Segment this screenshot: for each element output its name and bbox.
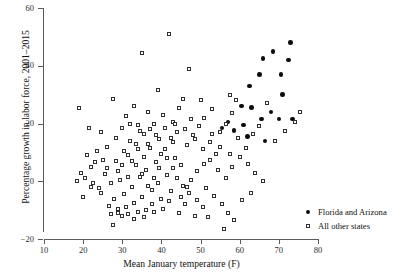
data-point-other-state <box>208 140 212 144</box>
data-point-other-state <box>167 199 171 203</box>
data-point-other-state <box>193 214 197 218</box>
data-point-florida-arizona <box>261 56 266 61</box>
x-tick-label: 30 <box>107 246 137 255</box>
data-point-other-state <box>257 124 261 128</box>
data-point-florida-arizona <box>241 123 246 128</box>
data-point-other-state <box>93 160 97 164</box>
data-point-other-state <box>144 208 148 212</box>
data-point-other-state <box>261 179 265 183</box>
data-point-other-state <box>152 176 156 180</box>
data-point-other-state <box>204 186 208 190</box>
legend-item-all-other-states: All other states <box>302 219 387 233</box>
data-point-other-state <box>179 195 183 199</box>
x-tick <box>240 239 241 244</box>
data-point-other-state <box>142 215 146 219</box>
legend-item-florida-arizona: Florida and Arizona <box>302 205 387 219</box>
data-point-other-state <box>220 202 224 206</box>
filled-circle-icon <box>302 210 314 215</box>
data-point-other-state <box>122 192 126 196</box>
data-point-other-state <box>193 137 197 141</box>
data-point-other-state <box>230 111 234 115</box>
data-point-other-state <box>154 133 158 137</box>
data-point-other-state <box>85 153 89 157</box>
y-axis-line <box>43 8 44 232</box>
data-point-florida-arizona <box>232 128 237 133</box>
data-point-other-state <box>173 122 177 126</box>
data-point-other-state <box>222 227 226 231</box>
data-point-other-state <box>175 176 179 180</box>
x-tick <box>201 239 202 244</box>
data-point-other-state <box>128 122 132 126</box>
data-point-other-state <box>177 211 181 215</box>
data-point-other-state <box>283 129 287 133</box>
data-point-other-state <box>116 211 120 215</box>
data-point-other-state <box>83 176 87 180</box>
data-point-florida-arizona <box>257 72 262 77</box>
data-point-other-state <box>99 191 103 195</box>
y-tick <box>38 239 43 240</box>
data-point-other-state <box>132 217 136 221</box>
data-point-other-state <box>152 122 156 126</box>
data-point-other-state <box>105 145 109 149</box>
x-tick-label: 60 <box>225 246 255 255</box>
data-point-other-state <box>238 155 242 159</box>
data-point-other-state <box>156 181 160 185</box>
data-point-other-state <box>208 158 212 162</box>
data-point-other-state <box>107 204 111 208</box>
data-point-other-state <box>120 126 124 130</box>
data-point-other-state <box>140 51 144 55</box>
data-point-other-state <box>173 156 177 160</box>
data-point-florida-arizona <box>249 105 254 110</box>
data-point-other-state <box>152 210 156 214</box>
scatter-plot-figure: −200204060 1020304050607080 Percentage g… <box>0 0 409 278</box>
data-point-other-state <box>134 142 138 146</box>
data-point-other-state <box>146 142 150 146</box>
data-point-other-state <box>75 179 79 183</box>
data-point-other-state <box>228 152 232 156</box>
data-point-other-state <box>136 147 140 151</box>
x-tick <box>279 239 280 244</box>
data-point-other-state <box>195 198 199 202</box>
data-point-florida-arizona <box>288 40 293 45</box>
data-point-other-state <box>230 165 234 169</box>
data-point-other-state <box>132 201 136 205</box>
data-point-other-state <box>105 166 109 170</box>
data-point-other-state <box>142 132 146 136</box>
data-point-other-state <box>218 145 222 149</box>
data-point-other-state <box>234 98 238 102</box>
chart-legend: Florida and Arizona All other states <box>302 205 387 233</box>
x-tick-label: 80 <box>303 246 333 255</box>
data-point-florida-arizona <box>259 117 264 122</box>
data-point-other-state <box>175 130 179 134</box>
data-point-other-state <box>157 166 161 170</box>
y-tick <box>38 8 43 9</box>
data-point-other-state <box>236 136 240 140</box>
data-point-other-state <box>77 106 81 110</box>
data-point-other-state <box>189 117 193 121</box>
data-point-other-state <box>99 130 103 134</box>
legend-label: Florida and Arizona <box>314 208 387 217</box>
data-point-other-state <box>228 93 232 97</box>
x-tick-label: 50 <box>186 246 216 255</box>
data-point-other-state <box>114 159 118 163</box>
data-point-other-state <box>79 171 83 175</box>
data-point-other-state <box>146 110 150 114</box>
data-point-other-state <box>161 207 165 211</box>
data-point-other-state <box>253 171 257 175</box>
x-axis-line <box>44 239 319 240</box>
y-tick <box>38 66 43 67</box>
data-point-other-state <box>144 168 148 172</box>
data-point-other-state <box>201 205 205 209</box>
data-point-other-state <box>206 215 210 219</box>
data-point-other-state <box>163 126 167 130</box>
data-point-other-state <box>202 116 206 120</box>
data-point-other-state <box>187 191 191 195</box>
y-axis-title: Percentage growth in labor force, 2001–2… <box>21 12 31 222</box>
data-point-other-state <box>126 175 130 179</box>
data-point-other-state <box>140 195 144 199</box>
data-point-other-state <box>134 163 138 167</box>
data-point-other-state <box>150 202 154 206</box>
data-point-other-state <box>136 123 140 127</box>
data-point-other-state <box>95 149 99 153</box>
data-point-other-state <box>240 198 244 202</box>
